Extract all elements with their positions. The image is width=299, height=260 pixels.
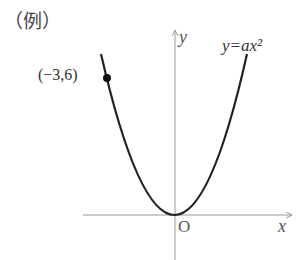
y-axis-label: y: [179, 27, 187, 48]
graph-figure: （例） (−3,6) y=ax² y x O: [0, 0, 299, 260]
point-marker: [103, 74, 111, 82]
point-label: (−3,6): [38, 66, 78, 84]
origin-label: O: [178, 217, 190, 237]
parabola-curve: [101, 54, 247, 215]
x-axis-label: x: [278, 216, 286, 237]
example-title: （例）: [4, 6, 61, 33]
equation-label: y=ax²: [222, 36, 262, 56]
